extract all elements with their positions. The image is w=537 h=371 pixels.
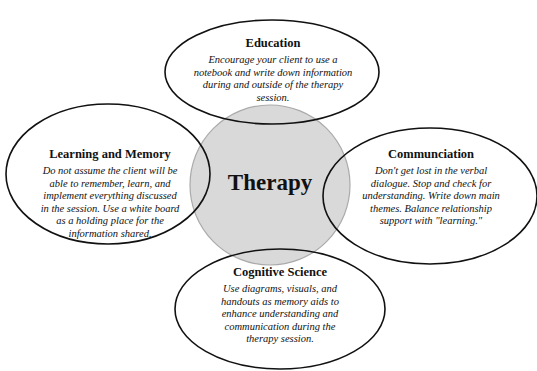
center-label: Therapy <box>215 170 325 196</box>
cognitive-science-description: Use diagrams, visuals, and handouts as m… <box>216 283 344 346</box>
education-node: Education Encourage your client to use a… <box>192 36 354 104</box>
communication-node: Communciation Don't get lost in the verb… <box>358 147 504 228</box>
cognitive-science-title: Cognitive Science <box>216 265 344 280</box>
learning-memory-title: Learning and Memory <box>40 147 180 162</box>
cognitive-science-node: Cognitive Science Use diagrams, visuals,… <box>216 265 344 346</box>
education-title: Education <box>192 36 354 51</box>
communication-title: Communciation <box>358 147 504 162</box>
communication-description: Don't get lost in the verbal dialogue. S… <box>358 165 504 228</box>
learning-memory-description: Do not assume the client will be able to… <box>40 165 180 240</box>
learning-memory-node: Learning and Memory Do not assume the cl… <box>40 147 180 240</box>
education-description: Encourage your client to use a notebook … <box>192 54 354 104</box>
